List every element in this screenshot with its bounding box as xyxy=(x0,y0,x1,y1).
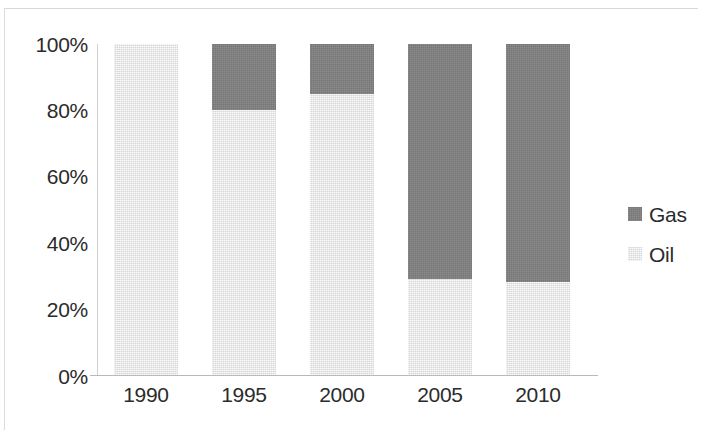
chart-legend: Gas Oil xyxy=(628,194,698,274)
y-axis-tick-20: 20% xyxy=(2,299,88,320)
bar-stack-1990[interactable] xyxy=(114,44,178,375)
bar-stack-1995[interactable] xyxy=(212,44,276,375)
x-axis-tick-1995: 1995 xyxy=(195,383,293,407)
y-axis-tick-100: 100% xyxy=(2,34,88,55)
bar-slot-2000 xyxy=(293,44,391,375)
x-axis-tick-2005: 2005 xyxy=(391,383,489,407)
bar-stack-2005[interactable] xyxy=(408,44,472,375)
y-axis-tick-60: 60% xyxy=(2,166,88,187)
bar-segment-oil-1990[interactable] xyxy=(114,44,178,375)
bar-segment-oil-1995[interactable] xyxy=(212,110,276,375)
bar-slot-1990 xyxy=(97,44,195,375)
x-axis-tick-2000: 2000 xyxy=(293,383,391,407)
legend-item-oil[interactable]: Oil xyxy=(628,234,698,274)
bar-segment-oil-2000[interactable] xyxy=(310,94,374,375)
bar-slot-2010 xyxy=(489,44,587,375)
y-axis-tick-0: 0% xyxy=(2,366,88,387)
bar-segment-gas-2000[interactable] xyxy=(310,44,374,94)
x-axis-line xyxy=(90,375,598,376)
y-axis-tick-80: 80% xyxy=(2,100,88,121)
legend-label-oil: Oil xyxy=(649,244,674,265)
bar-slot-1995 xyxy=(195,44,293,375)
bar-segment-gas-1995[interactable] xyxy=(212,44,276,110)
legend-swatch-gas-icon xyxy=(628,207,642,221)
bar-segment-oil-2005[interactable] xyxy=(408,279,472,375)
y-axis-labels: 100% 80% 60% 40% 20% 0% xyxy=(0,0,88,434)
y-axis-tick-40: 40% xyxy=(2,233,88,254)
legend-swatch-oil-icon xyxy=(628,247,642,261)
plot-area-bars xyxy=(97,44,587,375)
legend-item-gas[interactable]: Gas xyxy=(628,194,698,234)
bar-stack-2000[interactable] xyxy=(310,44,374,375)
bar-slot-2005 xyxy=(391,44,489,375)
x-axis-tick-1990: 1990 xyxy=(97,383,195,407)
legend-label-gas: Gas xyxy=(649,204,687,225)
chart-screenshot: 100% 80% 60% 40% 20% 0% 1990 1995 2000 2… xyxy=(0,0,702,434)
bar-stack-2010[interactable] xyxy=(506,44,570,375)
x-axis-labels: 1990 1995 2000 2005 2010 xyxy=(97,383,587,407)
bar-segment-gas-2010[interactable] xyxy=(506,44,570,282)
bar-segment-gas-2005[interactable] xyxy=(408,44,472,279)
bar-segment-oil-2010[interactable] xyxy=(506,282,570,375)
x-axis-tick-2010: 2010 xyxy=(489,383,587,407)
